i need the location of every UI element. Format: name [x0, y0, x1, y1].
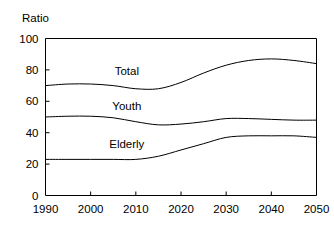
series-label-total: Total: [115, 65, 139, 77]
x-tick-label: 2010: [123, 203, 149, 215]
x-tick-label: 2050: [304, 203, 330, 215]
x-tick-label: 2020: [168, 203, 194, 215]
y-axis-title: Ratio: [22, 12, 49, 24]
y-tick-label: 40: [26, 127, 39, 139]
x-tick-label: 2000: [78, 203, 104, 215]
y-tick-label: 80: [26, 64, 39, 76]
chart-container: Ratio 020406080100 199020002010202020302…: [0, 0, 334, 233]
y-tick-label: 0: [32, 190, 38, 202]
x-tick-label: 2040: [259, 203, 285, 215]
y-tick-label: 100: [19, 33, 38, 45]
x-tick-label: 2030: [213, 203, 239, 215]
series-label-elderly: Elderly: [109, 138, 144, 150]
line-chart: Ratio 020406080100 199020002010202020302…: [0, 0, 334, 233]
x-tick-label: 1990: [33, 203, 59, 215]
y-tick-label: 60: [26, 95, 39, 107]
y-tick-label: 20: [26, 158, 39, 170]
series-label-youth: Youth: [112, 100, 141, 112]
